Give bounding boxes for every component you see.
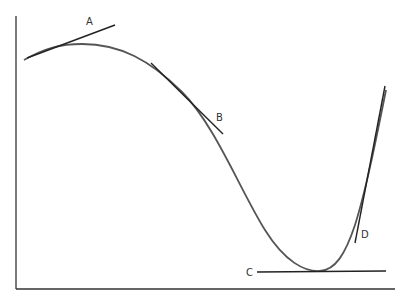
tangent-diagram: A B C D xyxy=(0,0,407,304)
tangent-a xyxy=(27,25,115,58)
tangent-d xyxy=(355,86,385,243)
tangent-b xyxy=(151,63,223,134)
label-b: B xyxy=(216,112,223,123)
tangent-c xyxy=(257,271,386,272)
label-a: A xyxy=(86,16,93,27)
label-c: C xyxy=(246,267,253,278)
label-d: D xyxy=(361,229,369,240)
curve xyxy=(24,44,386,271)
